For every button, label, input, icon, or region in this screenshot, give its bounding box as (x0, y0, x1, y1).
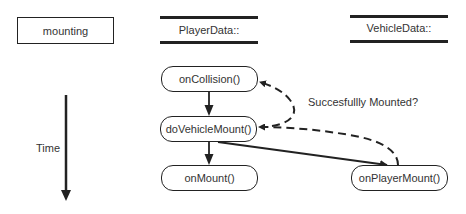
node-do-vehicle-mount: doVehicleMount() (160, 116, 257, 142)
time-axis-label: Time (36, 142, 60, 154)
return-annotation: Succesfullly Mounted? (308, 96, 418, 108)
node-on-player-mount: onPlayerMount() (351, 165, 448, 191)
node-on-collision-label: onCollision() (179, 73, 240, 85)
return-arrow-playermount-to-vehiclemount (259, 127, 398, 165)
node-on-player-mount-label: onPlayerMount() (359, 172, 440, 184)
node-on-collision: onCollision() (161, 66, 258, 92)
node-on-mount: onMount() (161, 165, 258, 191)
arrow-collision-to-vehiclemount (205, 91, 214, 116)
time-axis-arrow (61, 95, 71, 201)
node-on-mount-label: onMount() (184, 172, 234, 184)
node-do-vehicle-mount-label: doVehicleMount() (166, 123, 252, 135)
return-arrow-vehiclemount-to-collision (260, 82, 294, 126)
arrow-vehiclemount-to-onmount (205, 142, 214, 165)
arrow-vehiclemount-to-playermount (218, 142, 387, 165)
